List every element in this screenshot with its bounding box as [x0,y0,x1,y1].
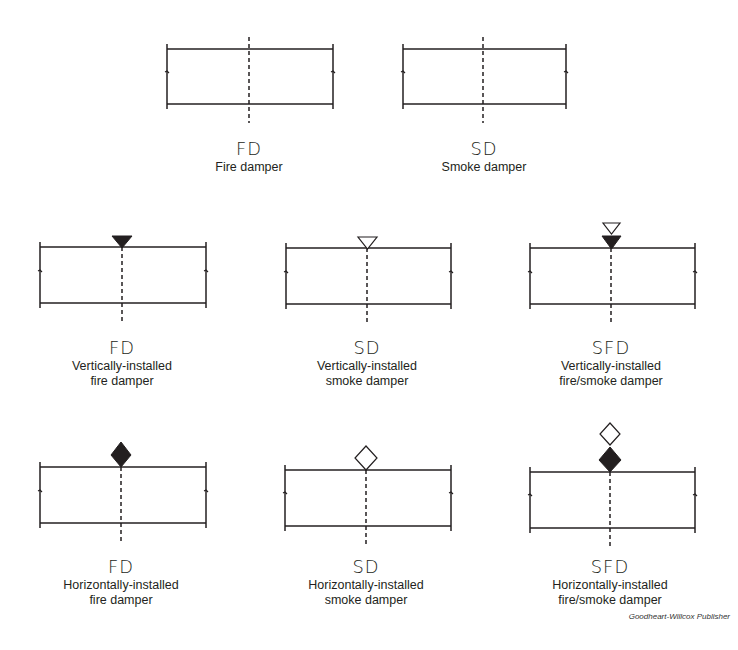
symbol-abbreviation: FD [144,139,354,159]
label-sd-plain: SD Smoke damper [384,139,584,175]
duct-symbol-sfd-horizontal [528,467,697,547]
filled-diamond-icon [111,442,131,467]
symbol-description-line1: Horizontally-installed [266,578,466,593]
symbol-description-line1: Vertically-installed [22,359,222,374]
symbol-abbreviation: FD [16,557,226,577]
duct-symbol-sd-vertical [284,243,453,323]
duct-symbol-fd-horizontal [38,462,208,542]
label-sfd-horizontal: SFD Horizontally-installed fire/smoke da… [510,557,710,608]
open-triangle-icon [603,223,620,234]
label-fd-plain: FD Fire damper [149,139,349,175]
label-fd-horizontal: FD Horizontally-installed fire damper [21,557,221,608]
open-diamond-icon [355,446,377,470]
symbol-description-line2: smoke damper [267,374,467,389]
duct-symbol-sd-horizontal [283,465,453,545]
symbol-description-line1: Horizontally-installed [21,578,221,593]
filled-triangle-icon [112,236,132,248]
symbol-description: Fire damper [149,160,349,175]
duct-symbol-fd-plain [165,37,335,123]
label-sfd-vertical: SFD Vertically-installed fire/smoke damp… [511,338,711,389]
label-fd-vertical: FD Vertically-installed fire damper [22,338,222,389]
symbol-abbreviation: SD [379,139,589,159]
symbol-description: Smoke damper [384,160,584,175]
open-triangle-icon [358,237,377,249]
symbol-abbreviation: SFD [506,338,716,358]
symbol-abbreviation: FD [17,338,227,358]
publisher-credit: Goodheart-Willcox Publisher [629,612,730,621]
symbol-description-line2: fire/smoke damper [510,593,710,608]
filled-triangle-icon [602,236,621,249]
symbol-description-line1: Vertically-installed [267,359,467,374]
damper-symbols-diagram [0,0,738,650]
symbol-description-line1: Horizontally-installed [510,578,710,593]
duct-symbol-sd-plain [401,37,568,123]
symbol-description-line1: Vertically-installed [511,359,711,374]
symbol-description-line2: smoke damper [266,593,466,608]
duct-symbol-sfd-vertical [528,243,697,323]
symbol-description-line2: fire/smoke damper [511,374,711,389]
label-sd-vertical: SD Vertically-installed smoke damper [267,338,467,389]
filled-diamond-icon [599,447,621,472]
symbol-abbreviation: SD [262,338,472,358]
open-diamond-icon [600,423,620,445]
symbol-abbreviation: SD [261,557,471,577]
label-sd-horizontal: SD Horizontally-installed smoke damper [266,557,466,608]
duct-symbol-fd-vertical [38,242,208,322]
symbol-description-line2: fire damper [22,374,222,389]
symbol-abbreviation: SFD [505,557,715,577]
symbol-description-line2: fire damper [21,593,221,608]
